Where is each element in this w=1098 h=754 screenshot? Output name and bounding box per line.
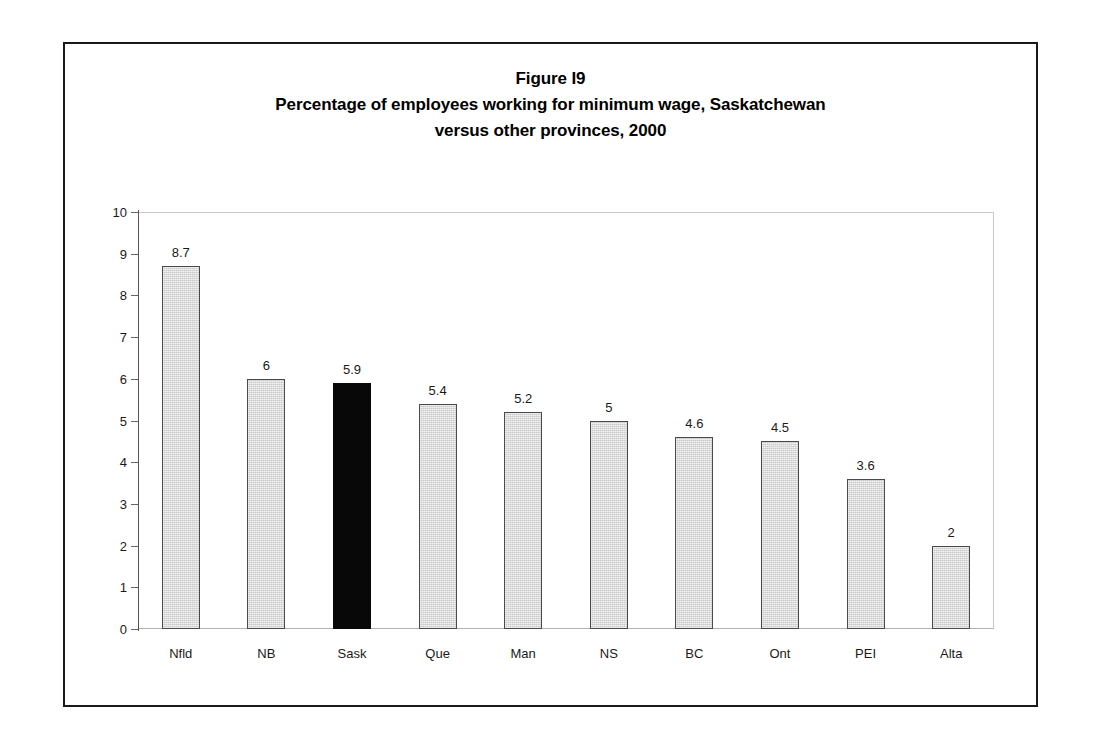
- figure-title-block: Figure I9 Percentage of employees workin…: [65, 66, 1036, 144]
- bar-bc[interactable]: 4.6: [675, 437, 713, 629]
- y-axis-tick-label: 8: [120, 288, 127, 303]
- bar-nfld[interactable]: 8.7: [162, 266, 200, 629]
- bar-value-label: 3.6: [857, 458, 875, 473]
- y-axis-tick-label: 5: [120, 413, 127, 428]
- bar-value-label: 5: [605, 400, 612, 415]
- y-axis-tick-mark: [131, 629, 138, 630]
- bar-value-label: 8.7: [172, 245, 190, 260]
- bar-value-label: 5.4: [429, 383, 447, 398]
- y-axis-tick-mark: [131, 546, 138, 547]
- y-axis-tick-mark: [131, 295, 138, 296]
- bar-chart: 012345678910 8.7Nfld6NB5.9Sask5.4Que5.2M…: [138, 212, 994, 629]
- y-axis-tick-label: 2: [120, 538, 127, 553]
- bar-nb[interactable]: 6: [247, 379, 285, 629]
- bar-que[interactable]: 5.4: [419, 404, 457, 629]
- x-axis-category-label: NS: [600, 646, 618, 661]
- bar-value-label: 5.2: [514, 391, 532, 406]
- figure-title-line-3: versus other provinces, 2000: [65, 118, 1036, 144]
- x-axis-category-label: Sask: [338, 646, 367, 661]
- figure-title-line-2: Percentage of employees working for mini…: [65, 92, 1036, 118]
- bar-value-label: 6: [263, 358, 270, 373]
- y-axis-tick-mark: [131, 379, 138, 380]
- x-axis-category-label: BC: [685, 646, 703, 661]
- x-axis-category-label: Nfld: [169, 646, 192, 661]
- y-axis-tick-label: 0: [120, 622, 127, 637]
- bar-group: 2Alta: [908, 212, 994, 629]
- y-axis-tick-label: 7: [120, 330, 127, 345]
- bar-value-label: 4.6: [685, 416, 703, 431]
- x-axis-category-label: Man: [511, 646, 536, 661]
- bar-group: 5.9Sask: [309, 212, 395, 629]
- x-axis-category-label: Ont: [770, 646, 791, 661]
- y-axis-tick-mark: [131, 587, 138, 588]
- bar-group: 8.7Nfld: [138, 212, 224, 629]
- bar-group: 6NB: [224, 212, 310, 629]
- y-axis-tick-mark: [131, 212, 138, 213]
- x-axis-category-label: PEI: [855, 646, 876, 661]
- y-axis-tick-mark: [131, 421, 138, 422]
- bar-value-label: 4.5: [771, 420, 789, 435]
- bar-sask[interactable]: 5.9: [333, 383, 371, 629]
- bar-group: 4.5Ont: [737, 212, 823, 629]
- bar-ont[interactable]: 4.5: [761, 441, 799, 629]
- bar-group: 5.4Que: [395, 212, 481, 629]
- x-axis-category-label: NB: [257, 646, 275, 661]
- y-axis-tick-label: 1: [120, 580, 127, 595]
- bar-alta[interactable]: 2: [932, 546, 970, 629]
- y-axis-tick-label: 9: [120, 246, 127, 261]
- y-axis-tick-label: 10: [113, 205, 127, 220]
- bar-value-label: 5.9: [343, 362, 361, 377]
- bar-value-label: 2: [948, 525, 955, 540]
- y-axis-tick-label: 4: [120, 455, 127, 470]
- figure-title-line-1: Figure I9: [65, 66, 1036, 92]
- y-axis-tick-mark: [131, 337, 138, 338]
- y-axis-tick-mark: [131, 254, 138, 255]
- bar-ns[interactable]: 5: [590, 421, 628, 630]
- x-axis-category-label: Que: [425, 646, 450, 661]
- y-axis-tick-label: 3: [120, 496, 127, 511]
- y-axis-tick-mark: [131, 462, 138, 463]
- bar-group: 3.6PEI: [823, 212, 909, 629]
- x-axis-category-label: Alta: [940, 646, 962, 661]
- figure-frame: Figure I9 Percentage of employees workin…: [63, 42, 1038, 707]
- y-axis-tick-label: 6: [120, 371, 127, 386]
- bar-pei[interactable]: 3.6: [847, 479, 885, 629]
- y-axis-tick-mark: [131, 504, 138, 505]
- bar-man[interactable]: 5.2: [504, 412, 542, 629]
- bar-group: 5NS: [566, 212, 652, 629]
- bar-group: 5.2Man: [480, 212, 566, 629]
- bar-group: 4.6BC: [652, 212, 738, 629]
